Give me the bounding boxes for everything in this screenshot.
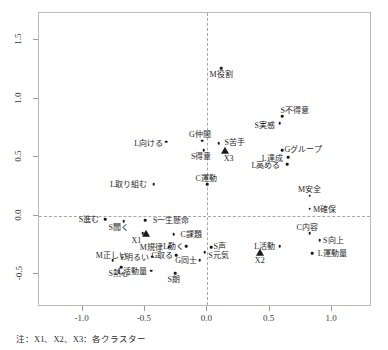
data-point [202,149,205,152]
y-axis-tick-label: 0.5 [13,150,23,161]
data-point [185,245,188,248]
data-point [278,245,281,248]
data-point-label: S声 [214,241,226,250]
data-point-label: S聞く [109,223,129,232]
data-point [286,163,289,166]
data-point-label: G同士 [175,256,197,265]
y-axis-tick [33,156,38,157]
data-point-label: S一生懸命 [153,216,189,225]
data-point [150,269,153,272]
data-point [318,239,321,242]
y-axis-tick [33,215,38,216]
cluster-centroid-marker [142,230,150,237]
x-axis-tick [331,306,332,311]
y-axis-tick-label: 1.5 [13,33,23,44]
data-point-label: L高める [252,161,281,170]
cluster-centroid-label: X1 [131,235,141,244]
data-point [210,246,213,249]
y-axis-tick [33,98,38,99]
data-point [165,141,168,144]
data-point-label: L向ける [134,139,163,148]
data-point [111,259,114,262]
x-axis-tick-label: 1.0 [325,313,336,323]
cluster-centroid-label: X3 [224,153,234,162]
data-point [206,183,209,186]
data-point-label: L運動量 [318,249,347,258]
data-point-label: S向上 [323,236,343,245]
data-point-label: C運動 [195,173,216,182]
data-point-label: L活動量 [118,266,147,275]
data-point-label: S進む [79,215,99,224]
y-axis-tick-label: 1.0 [13,92,23,103]
x-axis-tick [82,306,83,311]
x-axis-tick-label: 0.5 [263,313,274,323]
data-point-label: Gグループ [285,144,323,153]
data-point [287,156,290,159]
data-point [217,142,220,145]
x-axis-tick [206,306,207,311]
data-point-label: M確保 [313,204,336,213]
data-point [199,259,202,262]
x-axis-tick-label: -0.5 [137,313,151,323]
data-point-label: M正しい [96,250,127,259]
data-point [152,183,155,186]
data-point [204,251,207,254]
data-point-label: S実感 [255,121,275,130]
data-point-label: C内容 [296,222,317,231]
data-point [201,139,204,142]
data-point [172,233,175,236]
data-point-label: S得意 [191,152,211,161]
data-point-label: S朗 [167,274,179,283]
data-point-label: G取る [152,251,174,260]
data-point-label: S苦手 [225,137,245,146]
scatter-plot-figure: M役割S不得意S実感G仲間S苦手S得意L向けるGグループL達成L高めるC運動L取… [0,0,388,350]
data-point-label: L取り組む [110,180,147,189]
data-point [308,232,311,235]
data-point [281,149,284,152]
y-axis-tick [33,273,38,274]
data-point-label: M安全 [298,185,321,194]
y-axis-tick-label: -0.5 [14,266,24,280]
y-axis-tick [33,39,38,40]
data-point [308,207,311,210]
data-point [281,115,284,118]
data-point [104,218,107,221]
data-point-label: G仲間 [189,130,211,139]
data-point [144,219,147,222]
x-axis-tick [144,306,145,311]
data-point [220,67,223,70]
data-point [151,255,154,258]
x-axis-tick-label: -1.0 [75,313,89,323]
data-point-label: C課題 [180,230,201,239]
data-point-label: M役割 [210,70,233,79]
data-point-label: L動く [163,242,184,251]
data-point [311,252,314,255]
data-point [278,122,281,125]
cluster-centroid-label: X2 [255,255,265,264]
x-axis-tick-label: 0.0 [201,313,212,323]
data-point [308,194,311,197]
y-axis-tick-label: 0.0 [13,209,23,220]
data-point-label: S不得意 [280,106,308,115]
data-point-label: S元気 [208,250,228,259]
footnote-note: 注：X1、X2、X3：各クラスター [16,332,146,344]
plot-area: M役割S不得意S実感G仲間S苦手S得意L向けるGグループL達成L高めるC運動L取… [38,12,371,306]
x-axis-tick [269,306,270,311]
